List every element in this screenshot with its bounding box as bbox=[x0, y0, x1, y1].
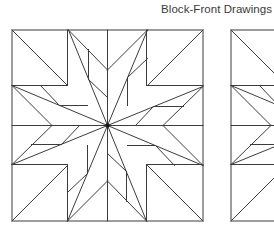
block-front-drawing-2 bbox=[231, 30, 274, 221]
block-front-drawing-1 bbox=[12, 30, 203, 221]
star-center-point bbox=[105, 123, 109, 127]
block-drawings-canvas bbox=[0, 0, 274, 235]
